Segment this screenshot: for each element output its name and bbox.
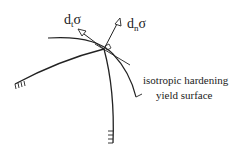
lower-branch-hatch bbox=[108, 131, 113, 143]
isotropic-surface-leader bbox=[136, 94, 142, 97]
normal-increment-arrow-shaft bbox=[104, 22, 118, 49]
normal-increment-label: dnσ bbox=[127, 16, 147, 33]
yield-surface-diagram: dtσ dnσ isotropic hardening yield surfac… bbox=[0, 0, 241, 159]
yield-surface-left-branch bbox=[15, 49, 104, 84]
yield-surface-lower-branch bbox=[104, 49, 113, 143]
tangent-line bbox=[95, 44, 130, 65]
normal-increment-arrowhead bbox=[115, 18, 121, 26]
surface-label-line1: isotropic hardening bbox=[143, 74, 229, 86]
isotropic-hardening-surface bbox=[48, 38, 136, 97]
surface-label-line2: yield surface bbox=[156, 89, 213, 101]
tangential-increment-label: dtσ bbox=[64, 12, 82, 29]
left-branch-hatch bbox=[15, 81, 25, 89]
